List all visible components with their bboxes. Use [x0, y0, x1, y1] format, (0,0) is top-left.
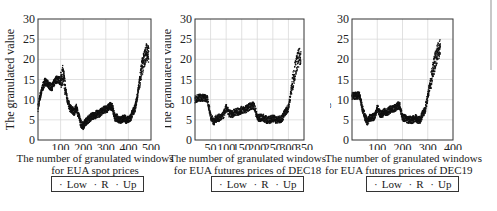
svg-text:20: 20 [180, 52, 192, 66]
chart-panel-dec19: 051015202530100200300400The granulated v… [330, 0, 497, 211]
legend: ·Low ·R ·Up [211, 176, 304, 192]
svg-text:200: 200 [394, 141, 412, 150]
legend-label-up: Up [123, 178, 136, 190]
svg-text:25: 25 [180, 32, 192, 46]
legend-label-up: Up [438, 178, 451, 190]
chart-panel-dec18: 05101520253050100150200250300350The gran… [165, 0, 330, 211]
svg-text:15: 15 [337, 73, 349, 87]
legend-marker-up: · [430, 178, 434, 190]
legend-label-low: Low [67, 178, 87, 190]
legend-marker-low: · [374, 178, 378, 190]
scrollbar-track[interactable] [490, 0, 492, 70]
legend-label-r: R [416, 178, 423, 190]
svg-text:500: 500 [142, 141, 160, 150]
svg-text:350: 350 [295, 141, 313, 150]
svg-text:25: 25 [23, 32, 35, 46]
svg-text:100: 100 [52, 141, 70, 150]
x-axis-label-line1: The number of granulated windows [325, 152, 470, 164]
svg-text:400: 400 [444, 141, 462, 150]
x-axis-label-line1: The number of granulated windows [155, 152, 340, 164]
x-axis-label: The number of granulated windows for EUA… [155, 152, 340, 176]
svg-text:10: 10 [23, 93, 35, 107]
svg-text:15: 15 [23, 73, 35, 87]
svg-text:5: 5 [186, 113, 192, 127]
svg-text:100: 100 [368, 141, 386, 150]
legend-label-r: R [261, 178, 268, 190]
svg-text:15: 15 [180, 73, 192, 87]
svg-text:30: 30 [23, 12, 35, 26]
svg-text:0: 0 [343, 133, 349, 147]
svg-text:5: 5 [29, 113, 35, 127]
svg-text:25: 25 [337, 32, 349, 46]
chart-panel-spot: 051015202530100200300400500The granulate… [0, 0, 165, 211]
x-axis-label-line2: for EUA futures prices of DEC18 [155, 164, 340, 176]
legend-label-low: Low [382, 178, 402, 190]
svg-text:200: 200 [74, 141, 92, 150]
svg-text:10: 10 [180, 93, 192, 107]
svg-text:The granulated value: The granulated value [330, 29, 331, 130]
legend-label-low: Low [227, 178, 247, 190]
svg-text:The granulated value: The granulated value [3, 29, 17, 130]
legend-marker-up: · [275, 178, 279, 190]
legend-marker-r: · [94, 178, 98, 190]
legend-label-r: R [101, 178, 108, 190]
legend-marker-r: · [409, 178, 413, 190]
svg-text:30: 30 [337, 12, 349, 26]
svg-text:20: 20 [23, 52, 35, 66]
legend: ·Low ·R ·Up [366, 176, 459, 192]
legend-marker-r: · [254, 178, 258, 190]
legend-marker-up: · [115, 178, 119, 190]
scatter-plot-dec19: 051015202530100200300400The granulated v… [330, 0, 497, 150]
svg-text:300: 300 [97, 141, 115, 150]
legend: ·Low ·R ·Up [51, 176, 144, 192]
scatter-plot-dec18: 05101520253050100150200250300350The gran… [165, 0, 330, 150]
scatter-plot-spot: 051015202530100200300400500The granulate… [0, 0, 165, 150]
svg-text:300: 300 [419, 141, 437, 150]
svg-text:0: 0 [186, 133, 192, 147]
svg-text:20: 20 [337, 52, 349, 66]
svg-text:30: 30 [180, 12, 192, 26]
svg-text:10: 10 [337, 93, 349, 107]
svg-text:0: 0 [29, 133, 35, 147]
legend-marker-low: · [219, 178, 223, 190]
svg-text:5: 5 [343, 113, 349, 127]
svg-text:400: 400 [119, 141, 137, 150]
x-axis-label: The number of granulated windows for EUA… [325, 152, 470, 176]
svg-text:50: 50 [205, 141, 217, 150]
legend-label-up: Up [283, 178, 296, 190]
svg-text:The granulated value: The granulated value [165, 29, 174, 130]
legend-marker-low: · [59, 178, 63, 190]
x-axis-label-line2: for EUA futures prices of DEC19 [325, 164, 470, 176]
